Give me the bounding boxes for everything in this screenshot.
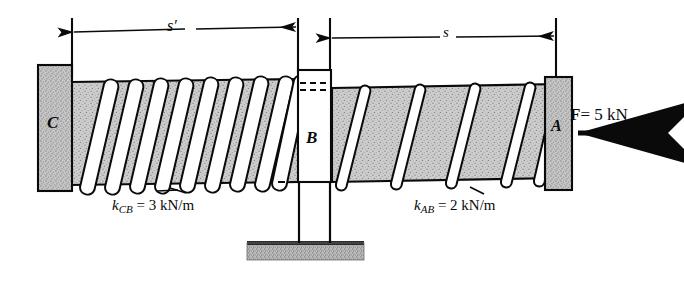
spring-ab-stiffness-label: kAB = 2 kN/m [414,197,496,215]
force-unit: kN [607,105,628,124]
post-b [298,70,331,243]
dimension-label-s-prime: s′ [167,17,177,35]
spring-cb-unit: kN/m [160,197,194,213]
spring-ab [332,82,566,191]
wall-c-label: C [47,113,58,133]
spring-cb-value: 3 [149,197,157,213]
spring-cb-symbol: k [112,197,119,213]
spring-ab-subscript: AB [421,203,434,215]
spring-ab-unit: kN/m [461,197,495,213]
spring-system-figure: s′ s C B A F= 5 kN kCB = 3 kN/m kAB = 2 … [0,0,684,282]
force-label: F= 5 kN [570,105,628,125]
figure-canvas [0,0,684,282]
spring-ab-equals: = [438,197,446,213]
force-magnitude: 5 [594,105,603,124]
spring-cb-stiffness-label: kCB = 3 kN/m [112,197,194,215]
force-equals: = [580,105,590,124]
dimension-s-prime [72,18,298,78]
dimension-label-s: s [443,24,449,41]
spring-ab-symbol: k [414,197,421,213]
post-b-label: B [306,128,317,148]
block-a-label: A [551,117,562,135]
spring-ab-value: 2 [450,197,458,213]
spring-cb-subscript: CB [119,203,133,215]
leader-kab [470,187,484,194]
spring-cb-equals: = [136,197,144,213]
spring-cb [70,75,308,194]
ground-support [247,241,364,260]
force-symbol: F [570,105,580,124]
